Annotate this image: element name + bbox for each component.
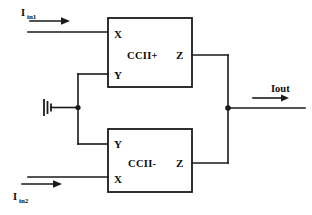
input-bottom-arrow xyxy=(22,180,62,188)
port-label-x-top: X xyxy=(114,28,122,40)
label-input-bottom-subscript: in2 xyxy=(19,197,29,205)
label-input-bottom: I in2 xyxy=(13,191,29,205)
label-input-top-subscript: in1 xyxy=(27,13,37,21)
circuit-diagram: X Y Z CCII+ Y X Z CCII- I in1 I in2 Iout xyxy=(0,0,312,215)
port-label-x-bottom: X xyxy=(114,173,122,185)
port-label-y-top: Y xyxy=(114,69,122,81)
output-arrow xyxy=(253,94,289,101)
label-input-top-symbol: I xyxy=(21,7,25,18)
label-output-iout: Iout xyxy=(271,83,290,94)
port-label-y-bottom: Y xyxy=(114,138,122,150)
circuit-canvas: X Y Z CCII+ Y X Z CCII- I in1 I in2 Iout xyxy=(0,0,312,215)
port-label-z-top: Z xyxy=(176,49,183,61)
junction-ground-node xyxy=(75,105,80,110)
ground-symbol xyxy=(44,99,78,116)
block-label-ccii-plus: CCII+ xyxy=(127,50,158,61)
block-label-ccii-minus: CCII- xyxy=(128,158,157,169)
port-label-z-bottom: Z xyxy=(176,157,183,169)
label-input-bottom-symbol: I xyxy=(13,191,17,202)
label-input-top: I in1 xyxy=(21,7,37,21)
